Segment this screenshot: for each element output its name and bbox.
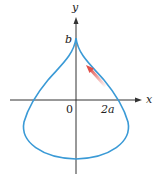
- teardrop-curve-diagram: y x b 0 2a: [0, 0, 157, 183]
- x-axis-label: x: [146, 94, 152, 105]
- origin-label: 0: [66, 104, 73, 115]
- y-axis-label: y: [72, 2, 78, 13]
- cusp-label: b: [65, 34, 72, 45]
- x-axis-arrow-icon: [135, 98, 142, 103]
- diagram-canvas: [0, 0, 157, 183]
- x-intercept-label: 2a: [101, 104, 115, 115]
- direction-arrow: [86, 65, 106, 87]
- y-axis-arrow-icon: [74, 17, 79, 24]
